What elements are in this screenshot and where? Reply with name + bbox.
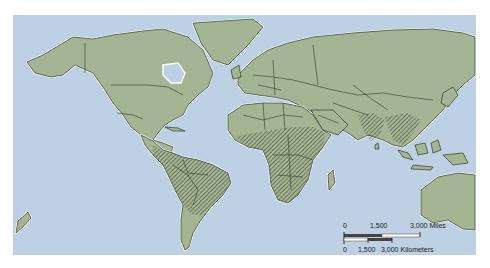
scale-km-0: 0	[343, 246, 347, 253]
world-map: 0 1,500 3,000 Miles 0 1,500 3,000 Kilome…	[13, 15, 476, 255]
south-america	[141, 135, 231, 250]
maritime-southeast-asia	[398, 140, 468, 170]
scale-miles-0: 0	[343, 222, 347, 229]
map-canvas	[13, 15, 476, 255]
scale-bar: 0 1,500 3,000 Miles 0 1,500 3,000 Kilome…	[343, 222, 476, 255]
scale-bar-graphic	[343, 232, 453, 246]
scale-km-1500: 1,500	[358, 246, 376, 253]
scale-miles-1500: 1,500	[370, 222, 388, 229]
new-zealand	[16, 212, 31, 233]
scale-miles-3000: 3,000 Miles	[410, 222, 446, 229]
sri-lanka	[375, 143, 379, 149]
north-america	[27, 29, 213, 153]
british-isles	[231, 65, 241, 79]
scale-km-3000: 3,000 Kilometers	[381, 246, 434, 253]
